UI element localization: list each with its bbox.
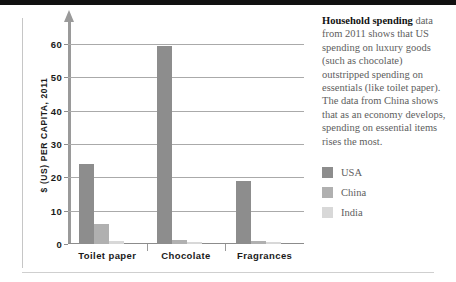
bar-india-toilet-paper	[109, 241, 124, 244]
legend-item-usa: USA	[322, 162, 446, 182]
gridline	[68, 244, 304, 245]
bar-china-fragrances	[251, 241, 266, 244]
y-tick-label: 60	[51, 39, 62, 50]
bar-groups	[68, 34, 304, 244]
bar-india-fragrances	[266, 242, 281, 244]
category-label-toilet-paper: Toilet paper	[68, 250, 147, 261]
legend-label-usa: USA	[341, 167, 362, 178]
legend-swatch-china	[322, 187, 333, 198]
legend-swatch-india	[322, 207, 333, 218]
legend: USAChinaIndia	[322, 162, 446, 222]
bar-chart: $ (US) PER CAPITA, 2011 0102030405060 To…	[22, 12, 310, 270]
y-tick-label: 30	[51, 139, 62, 150]
top-divider-rule	[0, 0, 456, 5]
y-tick-label: 20	[51, 172, 62, 183]
plot-area: 0102030405060 Toilet paperChocolateFragr…	[68, 34, 304, 244]
bar-group	[147, 34, 226, 244]
y-tick-label: 50	[51, 72, 62, 83]
category-label-fragrances: Fragrances	[225, 250, 304, 261]
legend-label-india: India	[341, 207, 363, 218]
infographic-page: $ (US) PER CAPITA, 2011 0102030405060 To…	[0, 0, 456, 282]
bar-india-chocolate	[187, 242, 202, 244]
bar-usa-fragrances	[236, 181, 251, 244]
legend-swatch-usa	[322, 167, 333, 178]
caption-lead: Household spending	[322, 15, 413, 26]
y-tick-mark	[64, 244, 68, 245]
legend-item-india: India	[322, 202, 446, 222]
bottom-divider-rule	[22, 272, 434, 273]
caption-text: Household spending data from 2011 shows …	[322, 14, 446, 148]
y-tick-label: 0	[56, 239, 62, 250]
caption-body: data from 2011 shows that US spending on…	[322, 15, 445, 147]
legend-label-china: China	[341, 187, 366, 198]
bar-china-chocolate	[172, 240, 187, 244]
caption-panel: Household spending data from 2011 shows …	[322, 14, 446, 222]
bar-usa-toilet-paper	[79, 164, 94, 244]
y-tick-label: 40	[51, 105, 62, 116]
category-label-chocolate: Chocolate	[147, 250, 226, 261]
bar-group	[225, 34, 304, 244]
y-tick-label: 10	[51, 205, 62, 216]
bar-group	[68, 34, 147, 244]
bar-usa-chocolate	[157, 46, 172, 244]
bar-china-toilet-paper	[94, 224, 109, 244]
y-axis-arrow-icon	[64, 10, 74, 22]
legend-item-china: China	[322, 182, 446, 202]
y-axis-title: $ (US) PER CAPITA, 2011	[39, 55, 49, 215]
